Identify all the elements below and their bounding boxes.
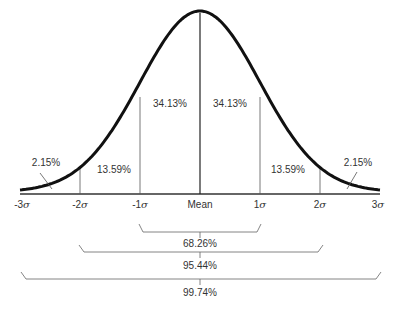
tick-minus-1-sigma: -1σ: [132, 199, 148, 210]
tick-plus-1-sigma: 1σ: [254, 199, 266, 210]
bracket-label-2-sigma: 95.44%: [183, 260, 217, 271]
region-label-minus3-minus2: 2.15%: [32, 157, 60, 168]
region-label-minus2-minus1: 13.59%: [97, 164, 131, 175]
tick-mean: Mean: [187, 199, 212, 210]
region-label-minus1-mean: 34.13%: [153, 98, 187, 109]
tick-minus-2-sigma: -2σ: [72, 199, 88, 210]
bracket-1-sigma: [139, 224, 261, 232]
region-label-mean-plus1: 34.13%: [213, 98, 247, 109]
bracket-label-1-sigma: 68.26%: [183, 238, 217, 249]
tick-minus-3-sigma: -3σ: [14, 199, 30, 210]
tick-plus-3-sigma: 3σ: [372, 199, 384, 210]
region-label-plus2-plus3: 2.15%: [344, 157, 372, 168]
region-label-plus1-plus2: 13.59%: [271, 164, 305, 175]
bracket-label-3-sigma: 99.74%: [183, 287, 217, 298]
bracket-3-sigma: [21, 272, 381, 279]
tick-plus-2-sigma: 2σ: [314, 199, 326, 210]
